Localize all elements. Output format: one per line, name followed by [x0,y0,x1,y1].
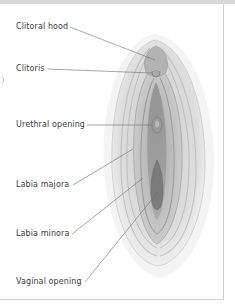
label-clitoral-hood: Clitoral hood [16,22,68,31]
label-labia-majora: Labia majora [16,180,69,189]
label-clitoris: Clitoris [16,64,45,73]
label-vaginal-opening: Vaginal opening [16,277,82,286]
label-labia-minora: Labia minora [16,229,69,238]
anatomy-illustration [0,0,235,305]
label-urethral-opening: Urethral opening [16,120,85,129]
